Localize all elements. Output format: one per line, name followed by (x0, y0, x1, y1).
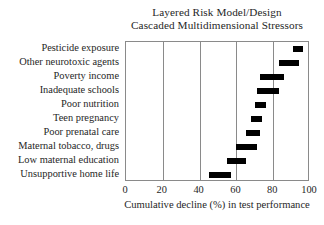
bar[interactable] (257, 88, 279, 94)
chart-title-line-2: Cascaded Multidimensional Stressors (125, 19, 309, 32)
y-axis-label: Poor nutrition (61, 97, 119, 111)
y-axis-label: Low maternal education (18, 153, 119, 167)
bar-row[interactable] (126, 112, 308, 126)
bar-row[interactable] (126, 168, 308, 182)
x-axis-tick-60: 60 (230, 183, 240, 196)
bar-row[interactable] (126, 154, 308, 168)
bar[interactable] (251, 116, 262, 122)
bar[interactable] (236, 144, 256, 150)
x-axis-tick-40: 40 (193, 183, 203, 196)
bars-layer (126, 42, 308, 180)
x-axis-tick-80: 80 (267, 183, 277, 196)
y-axis-label: Poverty income (53, 69, 119, 83)
y-axis-label: Unsupportive home life (20, 167, 119, 181)
bar-row[interactable] (126, 56, 308, 70)
bar-row[interactable] (126, 84, 308, 98)
bar[interactable] (260, 74, 284, 80)
bar[interactable] (227, 158, 245, 164)
bar[interactable] (279, 60, 299, 66)
y-axis-category-labels: Pesticide exposureOther neurotoxic agent… (0, 41, 122, 181)
bar-row[interactable] (126, 98, 308, 112)
x-axis-tick-100: 100 (301, 183, 317, 196)
bar[interactable] (209, 172, 231, 178)
bar[interactable] (255, 102, 266, 108)
chart-title: Layered Risk Model/Design Cascaded Multi… (125, 6, 309, 32)
y-axis-label: Teen pregnancy (53, 111, 119, 125)
plot-area (125, 41, 309, 181)
bar-row[interactable] (126, 140, 308, 154)
x-axis-label: Cumulative decline (%) in test performan… (110, 199, 324, 210)
bar[interactable] (246, 130, 261, 136)
bar[interactable] (293, 46, 302, 52)
bar-row[interactable] (126, 42, 308, 56)
x-axis-tick-20: 20 (157, 183, 167, 196)
y-axis-label: Poor prenatal care (43, 125, 119, 139)
bar-row[interactable] (126, 126, 308, 140)
chart-figure: Layered Risk Model/Design Cascaded Multi… (0, 0, 324, 225)
x-axis-tick-0: 0 (122, 183, 127, 196)
x-axis-tick-labels: 020406080100 (125, 183, 309, 196)
y-axis-label: Inadequate schools (40, 83, 119, 97)
y-axis-label: Other neurotoxic agents (19, 55, 119, 69)
y-axis-label: Pesticide exposure (41, 41, 119, 55)
y-axis-label: Maternal tobacco, drugs (18, 139, 119, 153)
chart-title-line-1: Layered Risk Model/Design (125, 6, 309, 19)
bar-row[interactable] (126, 70, 308, 84)
